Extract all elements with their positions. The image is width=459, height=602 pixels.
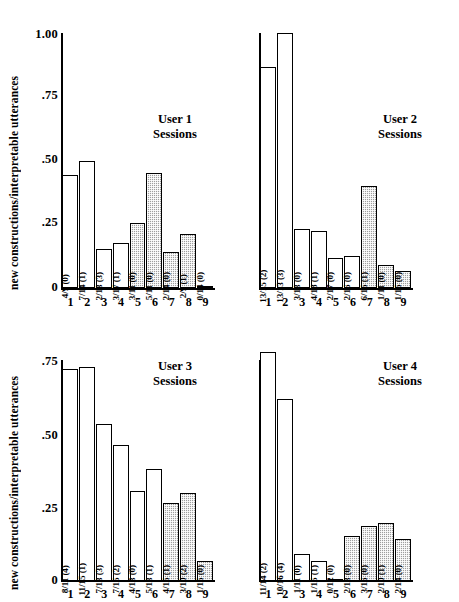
y-axis-title: new constructions/interpretable utteranc… bbox=[8, 352, 20, 590]
x-tick-4: 4 bbox=[311, 587, 328, 602]
x-tick-1: 1 bbox=[62, 295, 79, 310]
y-axis-line bbox=[259, 360, 261, 581]
bar-user-3-session-3[interactable] bbox=[96, 424, 112, 581]
y-tick-0: 0 bbox=[18, 281, 58, 294]
y-tick-0-50: .50 bbox=[18, 429, 58, 442]
panel-user-3: new constructions/interpretable utteranc… bbox=[0, 310, 229, 602]
y-tick-0-50: .50 bbox=[18, 153, 58, 166]
x-tick-5: 5 bbox=[328, 295, 345, 310]
x-tick-9: 9 bbox=[197, 295, 214, 310]
x-tick-3: 3 bbox=[294, 295, 311, 310]
x-tick-9: 9 bbox=[197, 587, 214, 602]
plot-area-user-4: 11/14 (2)10/16 (4)1/11 (0)1/15 (1)0/12 (… bbox=[260, 362, 412, 581]
bar-user-4-session-1[interactable] bbox=[260, 352, 276, 582]
x-tick-3: 3 bbox=[294, 587, 311, 602]
x-tick-6: 6 bbox=[146, 295, 163, 310]
x-tick-4: 4 bbox=[113, 587, 130, 602]
x-tick-6: 6 bbox=[344, 587, 361, 602]
x-tick-row-user-2: 123456789 bbox=[260, 291, 412, 311]
x-tick-2: 2 bbox=[79, 587, 96, 602]
bar-user-3-session-1[interactable] bbox=[62, 369, 78, 581]
y-axis-title: new constructions/interpretable utteranc… bbox=[8, 50, 20, 290]
y-tick-0-25: .25 bbox=[18, 502, 58, 515]
panel-user-1: new constructions/interpretable utteranc… bbox=[0, 0, 229, 310]
bar-user-2-session-1[interactable] bbox=[260, 67, 276, 288]
x-tick-1: 1 bbox=[62, 587, 79, 602]
x-tick-5: 5 bbox=[130, 587, 147, 602]
plot-area-user-1: 4/9 (0)7/14 (1)2/13 (3)3/17 (1)3/11 (0)5… bbox=[62, 33, 214, 288]
x-tick-row-user-4: 123456789 bbox=[260, 583, 412, 602]
x-tick-8: 8 bbox=[378, 295, 395, 310]
y-tick-0-75: .75 bbox=[18, 89, 58, 102]
y-axis-line bbox=[61, 33, 63, 289]
x-tick-1: 1 bbox=[260, 587, 277, 602]
x-axis-line bbox=[259, 580, 413, 582]
bar-user-4-session-2[interactable] bbox=[277, 399, 293, 582]
x-tick-8: 8 bbox=[180, 587, 197, 602]
bar-user-3-session-4[interactable] bbox=[113, 445, 129, 581]
y-tick-0-75: .75 bbox=[18, 355, 58, 368]
x-tick-3: 3 bbox=[96, 295, 113, 310]
x-tick-4: 4 bbox=[113, 295, 130, 310]
x-tick-2: 2 bbox=[277, 295, 294, 310]
plot-area-user-2: 13/15 (2)13/13 (3)3/13 (0)4/18 (1)2/17 (… bbox=[260, 33, 412, 288]
x-tick-8: 8 bbox=[180, 295, 197, 310]
x-tick-8: 8 bbox=[378, 587, 395, 602]
panel-user-2: User 2 Sessions 13/15 (2)13/13 (3)3/13 (… bbox=[229, 0, 459, 310]
bar-user-1-session-2[interactable] bbox=[79, 161, 95, 289]
x-tick-7: 7 bbox=[361, 587, 378, 602]
bar-user-2-session-2[interactable] bbox=[277, 33, 293, 288]
x-tick-9: 9 bbox=[395, 295, 412, 310]
x-axis-line bbox=[61, 580, 215, 582]
y-tick-0: 0 bbox=[18, 574, 58, 587]
x-tick-6: 6 bbox=[344, 295, 361, 310]
x-tick-6: 6 bbox=[146, 587, 163, 602]
x-tick-4: 4 bbox=[311, 295, 328, 310]
bar-user-3-session-2[interactable] bbox=[79, 367, 95, 581]
x-tick-7: 7 bbox=[361, 295, 378, 310]
x-tick-row-user-3: 123456789 bbox=[62, 583, 214, 602]
x-tick-7: 7 bbox=[163, 295, 180, 310]
y-axis-line bbox=[61, 360, 63, 581]
x-axis-line bbox=[61, 288, 215, 290]
x-tick-5: 5 bbox=[328, 587, 345, 602]
x-tick-5: 5 bbox=[130, 295, 147, 310]
figure-root: new constructions/interpretable utteranc… bbox=[0, 0, 459, 602]
x-tick-row-user-1: 123456789 bbox=[62, 291, 214, 311]
x-tick-2: 2 bbox=[79, 295, 96, 310]
panel-user-4: User 4 Sessions 11/14 (2)10/16 (4)1/11 (… bbox=[229, 310, 459, 602]
x-tick-1: 1 bbox=[260, 295, 277, 310]
y-tick-0-25: .25 bbox=[18, 216, 58, 229]
plot-area-user-3: 8/11 (4)11/15 (1)7/13 (3)7/15 (2)4/13 (0… bbox=[62, 362, 214, 581]
y-axis-line bbox=[259, 33, 261, 289]
bar-user-1-session-1[interactable] bbox=[62, 175, 78, 288]
y-tick-1-00: 1.00 bbox=[18, 28, 58, 41]
x-tick-2: 2 bbox=[277, 587, 294, 602]
x-axis-line bbox=[259, 288, 413, 290]
x-tick-9: 9 bbox=[395, 587, 412, 602]
x-tick-3: 3 bbox=[96, 587, 113, 602]
x-tick-7: 7 bbox=[163, 587, 180, 602]
